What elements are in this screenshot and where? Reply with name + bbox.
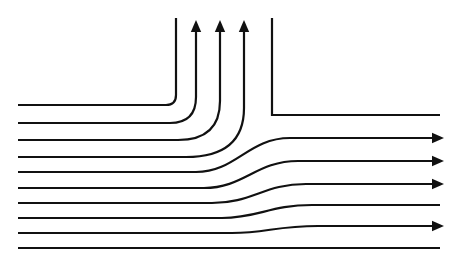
flow-diagram-svg xyxy=(0,0,457,267)
streamline-figure: Streamline pattern for flow through a br… xyxy=(0,0,457,267)
